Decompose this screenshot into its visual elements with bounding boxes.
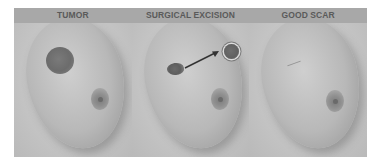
panel-tumor (14, 23, 132, 157)
nipple (98, 97, 103, 102)
arrow-icon (183, 47, 223, 71)
breast-illustration (15, 23, 131, 157)
breast-illustration (251, 23, 367, 157)
panel-label-tumor: TUMOR (14, 8, 132, 23)
panel-label-good-scar: GOOD SCAR (249, 8, 367, 23)
panel-good-scar (249, 23, 367, 157)
panel-surgical-excision (132, 23, 250, 157)
panels-row (14, 23, 367, 157)
tumor-mass (46, 47, 74, 74)
panel-header-band: TUMOR SURGICAL EXCISION GOOD SCAR (14, 8, 367, 23)
figure-frame: TUMOR SURGICAL EXCISION GOOD SCAR (14, 8, 367, 157)
excised-specimen (224, 44, 239, 59)
panel-label-surgical-excision: SURGICAL EXCISION (132, 8, 250, 23)
nipple (218, 97, 223, 102)
